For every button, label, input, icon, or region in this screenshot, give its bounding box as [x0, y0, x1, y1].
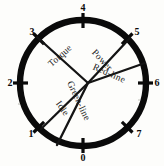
engine-dial-diagram: 45670123 TorquePowerRed-lineIdleGreen-li… — [0, 0, 164, 166]
tick-label-2: 2 — [8, 77, 13, 88]
tick-label-5: 5 — [135, 26, 140, 37]
tick-label-3: 3 — [30, 26, 35, 37]
paper-speck — [138, 99, 140, 101]
tick-label-7: 7 — [137, 128, 142, 139]
tick-label-4: 4 — [81, 2, 86, 13]
paper-speck — [18, 103, 20, 105]
tick-label-6: 6 — [155, 77, 160, 88]
tick-label-0: 0 — [81, 152, 86, 163]
tick-label-1: 1 — [29, 128, 34, 139]
engine-dial-svg: 45670123 TorquePowerRed-lineIdleGreen-li… — [0, 0, 164, 166]
